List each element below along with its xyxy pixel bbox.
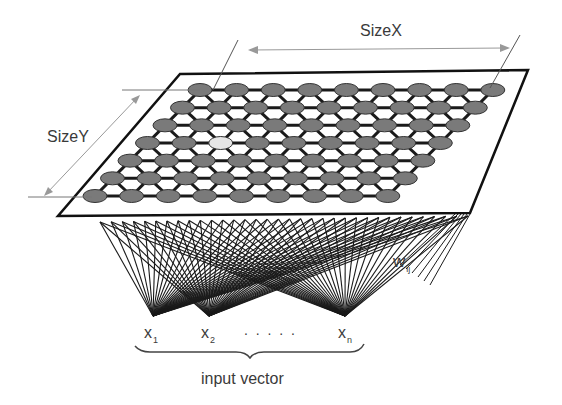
neuron-node	[83, 190, 107, 203]
neuron-node	[301, 154, 325, 167]
neuron-node	[481, 84, 505, 97]
neuron-node	[190, 119, 214, 132]
neuron-node	[261, 84, 285, 97]
arrow-left-icon	[248, 46, 258, 54]
neuron-node	[392, 137, 416, 150]
neuron-node	[354, 101, 378, 114]
neuron-node	[191, 154, 215, 167]
neuron-node	[156, 190, 180, 203]
input-symbol: x	[338, 324, 346, 341]
som-diagram: SizeX SizeY wij x1 x2 . . . . . xn input…	[0, 0, 562, 405]
neuron-node	[371, 84, 395, 97]
input-subscript: n	[347, 335, 352, 345]
neuron-node	[120, 190, 144, 203]
weights-label: wij	[393, 252, 410, 272]
input-subscript: 1	[153, 335, 158, 345]
weights-symbol: w	[393, 252, 405, 271]
neuron-node	[137, 172, 161, 185]
neuron-node	[101, 172, 125, 185]
input-symbol: x	[201, 324, 209, 341]
input-vector-label: input vector	[201, 370, 284, 388]
neuron-node	[153, 119, 177, 132]
neuron-node	[155, 154, 179, 167]
neuron-node	[376, 190, 400, 203]
neuron-node	[427, 101, 451, 114]
neuron-node	[444, 84, 468, 97]
neuron-node	[339, 190, 363, 203]
input-xn: xn	[338, 324, 352, 342]
winning-neuron	[209, 137, 233, 150]
neuron-node	[282, 137, 306, 150]
neuron-node	[225, 84, 249, 97]
neuron-node	[136, 137, 160, 150]
neuron-node	[463, 101, 487, 114]
neuron-node	[357, 172, 381, 185]
neuron-node	[266, 190, 290, 203]
neuron-node	[336, 119, 360, 132]
neuron-node	[193, 190, 217, 203]
input-symbol: x	[144, 324, 152, 341]
neuron-node	[244, 101, 268, 114]
neuron-node	[226, 119, 250, 132]
neuron-node	[411, 154, 435, 167]
neuron-node	[263, 119, 287, 132]
neuron-node	[280, 101, 304, 114]
neuron-node	[393, 172, 417, 185]
input-brace	[135, 344, 364, 358]
neuron-node	[320, 172, 344, 185]
neuron-node	[118, 154, 142, 167]
neuron-node	[172, 137, 196, 150]
neuron-node	[174, 172, 198, 185]
neuron-node	[355, 137, 379, 150]
input-subscript: 2	[210, 335, 215, 345]
neuron-node	[299, 119, 323, 132]
neuron-node	[373, 119, 397, 132]
neuron-node	[390, 101, 414, 114]
neuron-node	[298, 84, 322, 97]
neuron-node	[207, 101, 231, 114]
neuron-node	[317, 101, 341, 114]
neuron-node	[319, 137, 343, 150]
neuron-node	[229, 190, 253, 203]
neuron-node	[264, 154, 288, 167]
neuron-node	[284, 172, 308, 185]
neuron-node	[228, 154, 252, 167]
weights-subscript: ij	[406, 264, 410, 274]
neuron-node	[409, 119, 433, 132]
size-x-label: SizeX	[360, 22, 402, 40]
size-y-label: SizeY	[47, 128, 89, 146]
neuron-node	[247, 172, 271, 185]
neuron-node	[408, 84, 432, 97]
arrow-right-icon	[500, 44, 510, 52]
neuron-node	[374, 154, 398, 167]
neuron-node	[303, 190, 327, 203]
input-ellipsis: . . . . .	[244, 322, 297, 338]
input-x1: x1	[144, 324, 158, 342]
neuron-node	[446, 119, 470, 132]
neuron-node	[338, 154, 362, 167]
neuron-node	[210, 172, 234, 185]
neuron-node	[171, 101, 195, 114]
weight-connections	[100, 214, 470, 316]
som-diagram-canvas	[0, 0, 562, 405]
neuron-node	[245, 137, 269, 150]
neuron-node	[428, 137, 452, 150]
input-x2: x2	[201, 324, 215, 342]
neuron-node	[334, 84, 358, 97]
